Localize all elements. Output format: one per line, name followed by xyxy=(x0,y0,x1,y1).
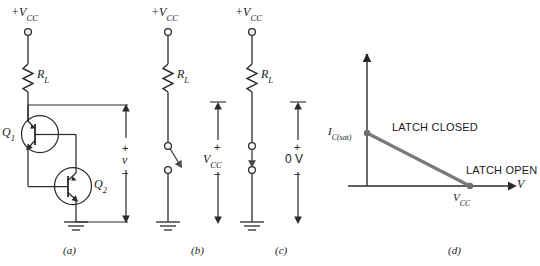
graph-annotation-latch-open: LATCH OPEN xyxy=(466,164,537,176)
ground-symbol-b xyxy=(156,222,180,230)
ground-symbol-c xyxy=(240,222,264,230)
supply-label-b: +VCC xyxy=(151,6,178,21)
resistor-label-c: RL xyxy=(261,68,273,83)
graph-y-axis-label: I xyxy=(364,52,368,64)
resistor-label-b: RL xyxy=(177,68,189,83)
graph-point-label-icsat: IC(sat) xyxy=(328,126,351,140)
graph-point-vcc xyxy=(467,183,473,189)
ground-symbol-a xyxy=(64,222,88,230)
transistor-q2 xyxy=(28,135,92,223)
caption-b: (b) xyxy=(191,244,204,256)
q1-emitter-lead xyxy=(28,141,35,149)
voltage-plus-b: + xyxy=(214,141,220,153)
resistor-RL-c xyxy=(247,64,257,92)
graph-annotation-latch-closed: LATCH CLOSED xyxy=(392,121,478,133)
caption-c: (c) xyxy=(275,244,287,256)
supply-label-c: +VCC xyxy=(235,6,262,21)
figure-root: +VCC RL Q1 Q2 + v – +VCC RL + VCC – +VCC… xyxy=(0,0,540,266)
switch-node-top-c xyxy=(249,143,256,150)
graph-point-label-vcc: VCC xyxy=(453,192,470,206)
voltage-minus-b: – xyxy=(214,167,220,179)
q2-emitter-lead xyxy=(68,193,76,201)
switch-node-bottom-b xyxy=(165,167,172,174)
switch-blade-open-b xyxy=(170,149,180,166)
voltage-value-b: VCC xyxy=(203,153,222,168)
voltage-minus-a: – xyxy=(122,166,128,178)
resistor-label-a: RL xyxy=(37,68,49,83)
resistor-RL-b xyxy=(163,64,173,92)
supply-terminal-b xyxy=(165,29,172,36)
supply-terminal-a xyxy=(25,29,32,36)
transistor-label-q1: Q1 xyxy=(2,126,15,141)
voltage-value-c: 0 V xyxy=(285,153,303,165)
graph-x-axis-label: V xyxy=(517,178,524,190)
figure-canvas xyxy=(0,0,540,266)
panel-b-circuit xyxy=(163,29,173,222)
transistor-q1 xyxy=(22,105,63,186)
supply-label-a: +VCC xyxy=(11,6,38,21)
voltage-minus-c: – xyxy=(294,167,300,179)
graph-point-icsat xyxy=(364,130,370,136)
transistor-label-q2: Q2 xyxy=(94,178,107,193)
graph-load-line xyxy=(367,133,470,186)
panel-c-circuit xyxy=(247,29,257,222)
caption-d: (d) xyxy=(448,244,461,256)
supply-terminal-c xyxy=(249,29,256,36)
caption-a: (a) xyxy=(63,244,76,256)
voltage-value-a: v xyxy=(122,154,127,166)
resistor-RL-a xyxy=(23,64,33,92)
switch-node-bottom-c xyxy=(249,167,256,174)
